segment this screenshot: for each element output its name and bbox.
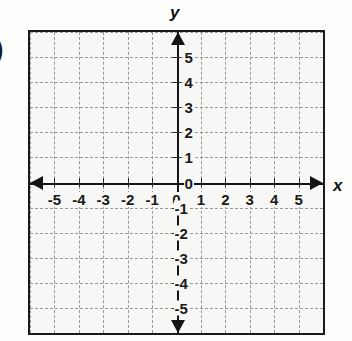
x-tick-label: -4 bbox=[71, 192, 86, 207]
x-tick-label: 2 bbox=[220, 192, 230, 207]
y-axis-arrow-down bbox=[171, 320, 185, 333]
y-tick-label: -4 bbox=[174, 275, 189, 290]
y-axis-tick bbox=[172, 107, 181, 108]
x-axis-tick bbox=[103, 178, 104, 187]
x-tick-label: -2 bbox=[120, 192, 135, 207]
x-tick-label: -1 bbox=[144, 192, 159, 207]
x-tick-label: -5 bbox=[47, 192, 62, 207]
x-axis-arrow-left bbox=[30, 176, 43, 190]
y-tick-label: -3 bbox=[174, 250, 189, 265]
x-tick-label: -3 bbox=[96, 192, 111, 207]
x-axis-tick bbox=[128, 178, 129, 187]
x-tick-label: 1 bbox=[196, 192, 206, 207]
y-tick-label: -5 bbox=[174, 300, 189, 315]
y-tick-label: 5 bbox=[184, 50, 194, 65]
x-axis-label: x bbox=[333, 177, 342, 194]
y-tick-label: -2 bbox=[174, 225, 189, 240]
x-axis-tick bbox=[274, 178, 275, 187]
y-tick-label: 1 bbox=[184, 150, 194, 165]
x-axis-tick bbox=[299, 178, 300, 187]
x-tick-label: 3 bbox=[245, 192, 255, 207]
x-axis-tick bbox=[54, 178, 55, 187]
x-tick-label: 5 bbox=[293, 192, 303, 207]
y-axis-tick bbox=[172, 132, 181, 133]
y-tick-label: 0 bbox=[184, 175, 194, 190]
y-tick-label: 3 bbox=[184, 100, 194, 115]
coordinate-plane: -5-4-3-2-1012345543210-1-2-3-4-5 bbox=[28, 30, 325, 335]
cut-off-margin-label: ) bbox=[0, 34, 4, 64]
y-axis-tick bbox=[172, 82, 181, 83]
x-axis-tick bbox=[79, 178, 80, 187]
y-axis-label: y bbox=[170, 4, 179, 21]
y-axis-tick bbox=[172, 57, 181, 58]
x-axis-tick bbox=[250, 178, 251, 187]
y-tick-label: 2 bbox=[184, 125, 194, 140]
x-axis-arrow-right bbox=[310, 176, 323, 190]
gridline-horizontal bbox=[30, 333, 323, 334]
y-axis-tick bbox=[172, 157, 181, 158]
y-tick-label: -1 bbox=[174, 200, 189, 215]
y-axis-arrow-up bbox=[171, 32, 185, 45]
x-axis-tick bbox=[201, 178, 202, 187]
y-tick-label: 4 bbox=[184, 75, 194, 90]
gridline-vertical bbox=[323, 32, 324, 333]
x-axis-tick bbox=[152, 178, 153, 187]
x-axis-tick bbox=[225, 178, 226, 187]
x-tick-label: 4 bbox=[269, 192, 279, 207]
